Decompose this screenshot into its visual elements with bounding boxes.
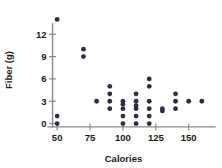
data-point	[107, 99, 112, 104]
x-axis: 5075100125150	[48, 123, 215, 143]
data-point	[199, 99, 204, 104]
data-point	[134, 121, 139, 126]
scatter-chart: 036912 5075100125150 Calories Fiber (g)	[0, 0, 222, 168]
data-point	[134, 106, 139, 111]
data-point	[173, 106, 178, 111]
data-point	[55, 114, 60, 119]
x-axis-title: Calories	[105, 153, 143, 164]
data-point	[94, 99, 99, 104]
y-tick-label: 0	[41, 118, 46, 129]
data-point	[121, 121, 126, 126]
data-point	[147, 99, 152, 104]
y-tick-label: 3	[41, 96, 46, 107]
data-point	[107, 84, 112, 89]
x-tick-label: 100	[115, 132, 131, 143]
data-point	[121, 102, 126, 107]
data-point	[134, 91, 139, 96]
x-tick-label: 150	[181, 132, 197, 143]
data-point	[147, 84, 152, 89]
data-point	[55, 121, 60, 126]
data-point	[55, 17, 60, 22]
data-point	[186, 99, 191, 104]
data-point	[173, 91, 178, 96]
y-tick-label: 9	[41, 51, 46, 62]
y-axis-title: Fiber (g)	[3, 51, 14, 89]
data-point	[81, 54, 86, 59]
y-tick-label: 12	[36, 29, 47, 40]
data-point	[147, 106, 152, 111]
x-tick-label: 75	[85, 132, 96, 143]
data-point	[173, 99, 178, 104]
plot-area: 036912 5075100125150 Calories Fiber (g)	[0, 0, 222, 168]
data-point	[107, 91, 112, 96]
data-point	[147, 77, 152, 82]
data-point	[81, 47, 86, 52]
x-tick-label: 125	[148, 132, 165, 143]
data-point	[147, 114, 152, 119]
x-tick-label: 50	[52, 132, 63, 143]
data-point	[107, 106, 112, 111]
data-point	[134, 114, 139, 119]
data-points-layer	[55, 17, 204, 126]
data-point	[134, 99, 139, 104]
y-axis: 036912	[36, 24, 56, 129]
data-point	[121, 114, 126, 119]
y-tick-label: 6	[41, 73, 46, 84]
data-point	[160, 108, 165, 113]
data-point	[147, 121, 152, 126]
data-point	[121, 106, 126, 111]
